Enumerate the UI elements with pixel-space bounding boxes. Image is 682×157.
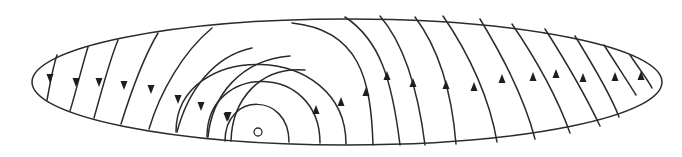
streamline <box>208 56 290 137</box>
arrow-down-icon <box>198 102 205 111</box>
arrow-up-icon <box>612 72 619 81</box>
streamline <box>512 24 570 133</box>
arrow-up-icon <box>443 80 450 89</box>
arrow-down-icon <box>47 74 54 83</box>
streamline-diagram <box>0 0 682 157</box>
arrow-up-icon <box>553 69 560 78</box>
streamline <box>207 81 320 143</box>
arrow-up-icon <box>580 73 587 82</box>
streamline <box>415 17 456 144</box>
arrow-down-icon <box>96 78 103 87</box>
point-source-marker <box>254 128 262 136</box>
streamline <box>121 33 158 124</box>
arrow-up-icon <box>338 97 345 106</box>
streamline <box>480 19 535 139</box>
diagram-canvas <box>0 0 682 157</box>
streamline <box>380 16 425 145</box>
arrow-up-icon <box>499 74 506 83</box>
arrow-up-icon <box>530 72 537 81</box>
arrow-up-icon <box>410 78 417 87</box>
arrow-up-icon <box>363 87 370 96</box>
arrow-down-icon <box>148 85 155 94</box>
arrow-down-icon <box>175 95 182 104</box>
streamline <box>231 70 305 141</box>
arrow-down-icon <box>121 81 128 90</box>
arrow-up-icon <box>313 105 320 114</box>
streamline <box>604 45 636 95</box>
streamline <box>292 23 373 145</box>
arrow-up-icon <box>471 82 478 91</box>
streamline <box>177 48 252 132</box>
